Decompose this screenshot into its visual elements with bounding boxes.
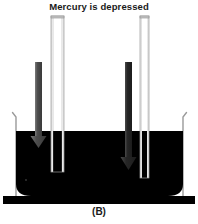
base-stand [3,196,195,204]
mercury-depression-diagram [0,0,198,224]
mercury-speck [25,179,27,181]
wide-capillary-tube [51,16,64,174]
figure-caption: (B) [0,206,198,217]
tube-left-mercury [53,149,63,174]
mercury-depression-figure: Mercury is depressed [0,0,198,224]
